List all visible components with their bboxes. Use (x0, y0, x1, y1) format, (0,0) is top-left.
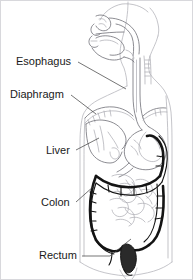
label-esophagus: Esophagus (16, 55, 72, 67)
label-colon: Colon (41, 196, 70, 208)
anatomy-diagram-svg: Esophagus Diaphragm Liver Colon Rectum (0, 0, 193, 280)
label-liver: Liver (46, 144, 70, 156)
label-diaphragm: Diaphragm (10, 88, 64, 100)
label-rectum: Rectum (39, 249, 77, 261)
anatomy-figure: Esophagus Diaphragm Liver Colon Rectum (0, 0, 193, 280)
